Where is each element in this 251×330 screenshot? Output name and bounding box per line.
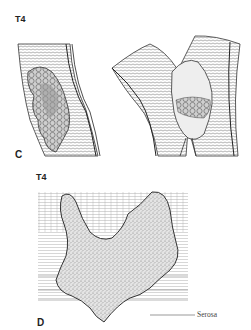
panel-d-letter: D <box>37 318 44 328</box>
serosa-label: Serosa <box>197 311 217 319</box>
panel-d-illustration <box>0 0 251 330</box>
